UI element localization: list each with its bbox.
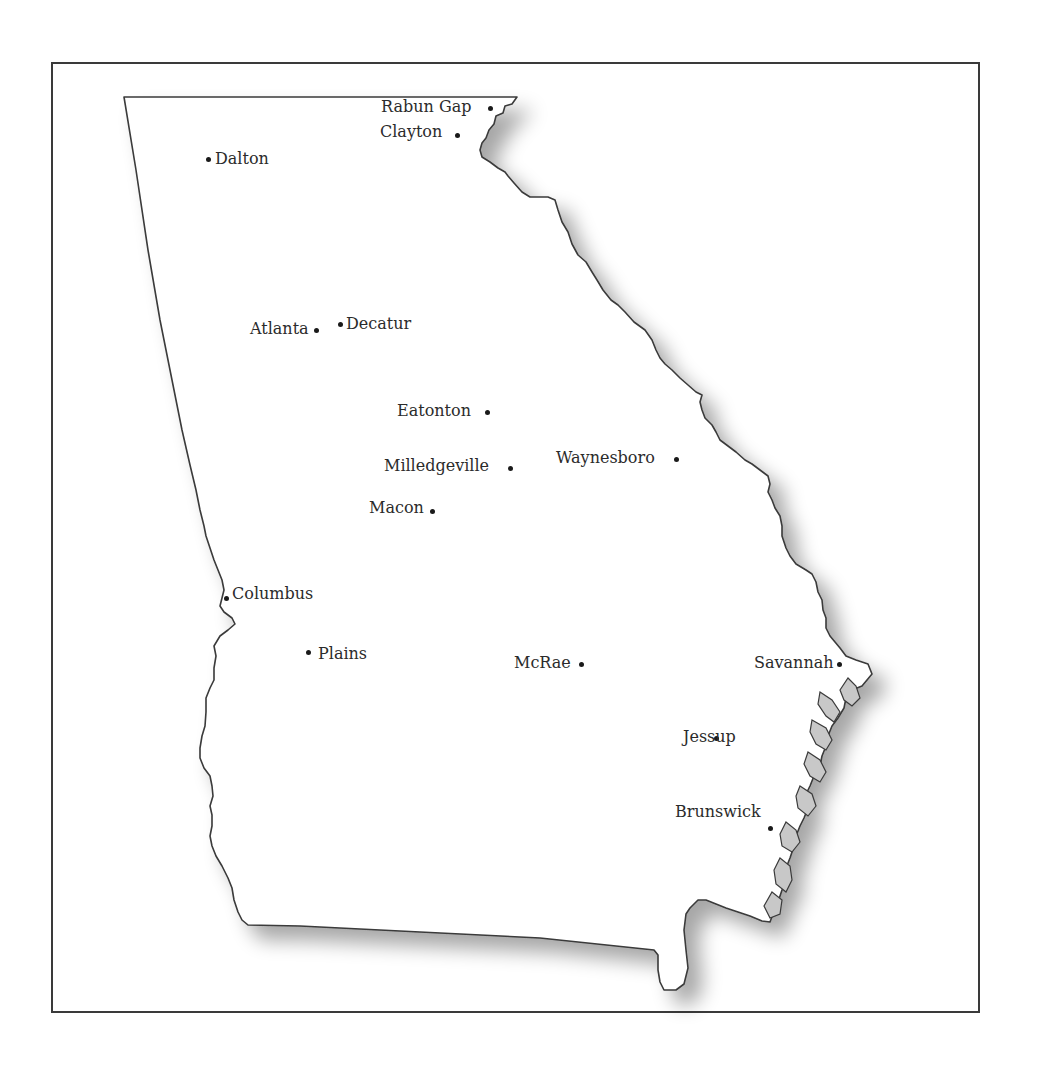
city-label-jessup: Jessup — [683, 729, 736, 745]
city-label-eatonton: Eatonton — [397, 403, 471, 419]
city-dot-columbus — [224, 596, 229, 601]
georgia-map — [0, 0, 1038, 1074]
city-label-decatur: Decatur — [346, 316, 411, 332]
city-label-rabun-gap: Rabun Gap — [381, 99, 471, 115]
city-label-milledgeville: Milledgeville — [384, 458, 489, 474]
city-label-atlanta: Atlanta — [250, 321, 309, 337]
city-dot-decatur — [338, 322, 343, 327]
city-dot-milledgeville — [508, 466, 513, 471]
city-dot-brunswick — [768, 826, 773, 831]
city-dot-plains — [306, 650, 311, 655]
city-label-dalton: Dalton — [215, 151, 269, 167]
city-label-macon: Macon — [369, 500, 424, 516]
city-label-columbus: Columbus — [232, 586, 313, 602]
city-label-brunswick: Brunswick — [675, 804, 761, 820]
city-label-savannah: Savannah — [754, 655, 834, 671]
city-label-clayton: Clayton — [380, 124, 442, 140]
state-outline — [124, 97, 872, 990]
city-label-mcrae: McRae — [514, 655, 571, 671]
city-dot-macon — [430, 509, 435, 514]
city-dot-dalton — [206, 157, 211, 162]
city-label-plains: Plains — [318, 646, 367, 662]
city-dot-clayton — [455, 133, 460, 138]
city-dot-waynesboro — [674, 457, 679, 462]
city-dot-mcrae — [579, 662, 584, 667]
city-dot-eatonton — [485, 410, 490, 415]
city-dot-savannah — [837, 662, 842, 667]
city-dot-atlanta — [314, 328, 319, 333]
city-label-waynesboro: Waynesboro — [556, 450, 655, 466]
city-dot-rabun-gap — [488, 106, 493, 111]
